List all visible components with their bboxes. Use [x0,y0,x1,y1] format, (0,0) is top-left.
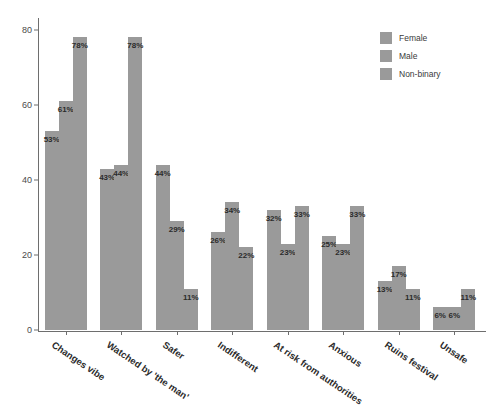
x-axis-tick-label: Ruins festival [383,339,440,383]
bar: 32% [267,210,281,330]
y-axis-tick-label: 20 [10,250,32,260]
x-axis-tick-mark [343,331,344,335]
bar-chart: 53%61%78%43%44%78%44%29%11%26%34%22%32%2… [0,0,494,412]
bar: 26% [211,232,225,330]
bar: 11% [461,289,475,330]
bar-value-label: 22% [238,251,254,260]
y-axis-tick-label: 40 [10,175,32,185]
bar: 25% [322,236,336,330]
x-axis-tick-mark [454,331,455,335]
bar-value-label: 11% [183,293,199,302]
bar-value-label: 44% [155,169,171,178]
bar-value-label: 34% [224,206,240,215]
bar: 6% [433,307,447,330]
bar-value-label: 33% [294,210,310,219]
bar-value-label: 6% [434,311,446,320]
bar-group: 32%23%33% [267,22,309,330]
y-axis-tick-label: 60 [10,100,32,110]
x-axis-tick-label: Indifferent [216,339,261,374]
bar-value-label: 44% [113,169,129,178]
legend: FemaleMaleNon-binary [380,30,441,84]
legend-swatch-icon [380,68,392,80]
bar: 61% [59,101,73,330]
x-axis-tick-label: Changes vibe [50,339,107,383]
legend-swatch-icon [380,32,392,44]
bar: 34% [225,202,239,330]
x-axis-tick-mark [121,331,122,335]
bar-group: 53%61%78% [45,22,87,330]
bar: 29% [170,221,184,330]
x-axis-tick-label: Anxious [327,339,364,369]
bar: 17% [392,266,406,330]
x-axis-line [38,331,486,332]
legend-item-label: Non-binary [399,69,441,79]
y-axis-tick-mark [34,179,38,180]
legend-item-label: Female [399,33,427,43]
y-axis-tick-mark [34,29,38,30]
bar: 22% [239,247,253,330]
x-axis-tick-mark [399,331,400,335]
bar: 23% [281,244,295,330]
bar-group: 25%23%33% [322,22,364,330]
bar-value-label: 32% [266,214,282,223]
bar-value-label: 61% [58,105,74,114]
bar: 78% [128,37,142,330]
bar: 23% [336,244,350,330]
legend-item[interactable]: Male [380,48,441,64]
bar-value-label: 78% [72,41,88,50]
bar: 43% [100,169,114,331]
bar: 6% [447,307,461,330]
legend-item[interactable]: Non-binary [380,66,441,82]
y-axis-tick-label: 0 [10,325,32,335]
bar-group: 44%29%11% [156,22,198,330]
y-axis-tick-label: 80 [10,25,32,35]
bar-value-label: 53% [44,135,60,144]
y-axis-tick-mark [34,330,38,331]
x-axis-tick-mark [177,331,178,335]
x-axis-tick-label: Safer [161,339,187,361]
y-axis-tick-mark [34,254,38,255]
x-axis-tick-mark [66,331,67,335]
y-axis-tick-mark [34,104,38,105]
bar: 78% [73,37,87,330]
bar-group: 43%44%78% [100,22,142,330]
bar-value-label: 23% [335,248,351,257]
bar: 44% [156,165,170,330]
bar: 11% [406,289,420,330]
bar: 11% [184,289,198,330]
legend-swatch-icon [380,50,392,62]
bar-value-label: 11% [460,293,476,302]
x-axis-tick-mark [288,331,289,335]
x-axis-tick-mark [232,331,233,335]
x-axis-tick-label: Unsafe [438,339,470,366]
bar-value-label: 26% [210,236,226,245]
bar: 33% [350,206,364,330]
bar-value-label: 6% [448,311,460,320]
bar-value-label: 33% [349,210,365,219]
legend-item-label: Male [399,51,417,61]
bar-value-label: 11% [405,293,421,302]
bar: 53% [45,131,59,330]
legend-item[interactable]: Female [380,30,441,46]
bar-value-label: 17% [391,270,407,279]
bar: 44% [114,165,128,330]
bar: 33% [295,206,309,330]
bar-value-label: 13% [377,285,393,294]
bar: 13% [378,281,392,330]
bar-value-label: 29% [169,225,185,234]
bar-value-label: 78% [127,41,143,50]
x-axis-tick-label: At risk from authorities [272,339,365,407]
bar-value-label: 23% [280,248,296,257]
bar-group: 26%34%22% [211,22,253,330]
